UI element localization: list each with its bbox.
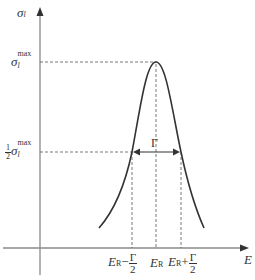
max-label-superscript: max: [17, 50, 31, 58]
tick-frac-den: 2: [189, 264, 197, 275]
tick-op: −: [121, 254, 128, 269]
half-max-subscript: l: [17, 151, 19, 159]
tick-op: +: [181, 254, 188, 269]
width-arrow-right-icon: [173, 149, 180, 156]
x-tick-center: ER: [150, 256, 163, 269]
y-axis-arrow-icon: [37, 7, 44, 16]
resonance-diagram: [0, 0, 255, 280]
half-max-superscript: max: [17, 139, 31, 147]
y-axis-label: σl: [17, 6, 26, 19]
y-label-subscript: l: [23, 10, 25, 19]
tick-base: E: [150, 255, 158, 270]
tick-sub: R: [158, 260, 163, 269]
x-tick-left: ER−Γ2: [108, 252, 137, 275]
max-label-subscript: l: [17, 62, 19, 70]
x-tick-right: ER+Γ2: [168, 252, 197, 275]
tick-base: E: [168, 254, 176, 269]
x-axis-label: E: [244, 253, 252, 266]
width-label: Γ: [151, 137, 158, 149]
tick-base: E: [108, 254, 116, 269]
width-arrow-left-icon: [133, 149, 140, 156]
x-axis-arrow-icon: [240, 245, 249, 252]
max-label: σ max l: [11, 55, 35, 68]
half-max-label: 12σ max l: [5, 144, 35, 161]
tick-frac-den: 2: [129, 264, 137, 275]
